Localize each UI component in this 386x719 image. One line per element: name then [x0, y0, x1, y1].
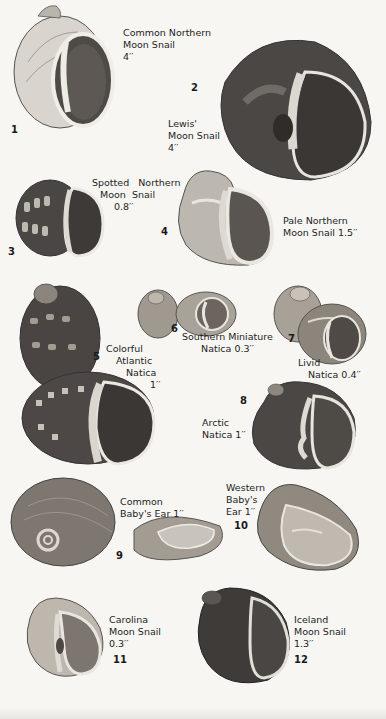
caption-line: Moon Snail — [123, 39, 211, 51]
caption-line: Moon Snail — [109, 626, 161, 638]
caption-12: Iceland Moon Snail 1.3′′ — [294, 614, 346, 650]
caption-line: Iceland — [294, 614, 346, 626]
caption-3: Spotted Northern Moon Snail 0.8′′ — [92, 177, 180, 213]
caption-line: Ear 1′′ — [226, 506, 265, 518]
caption-line: Baby's Ear 1′′ — [120, 508, 184, 520]
shell-illustration-8 — [248, 376, 360, 472]
caption-line: Moon Snail 1.5′′ — [283, 227, 357, 239]
shell-illustration-10 — [252, 481, 364, 573]
caption-line: Southern Miniature — [182, 331, 273, 343]
specimen-number-4: 4 — [161, 226, 168, 237]
caption-line: Lewis' — [168, 118, 220, 130]
caption-size: 4′′ — [123, 51, 211, 63]
caption-2: Lewis' Moon Snail 4′′ — [168, 118, 220, 154]
specimen-number-12: 12 — [294, 654, 308, 665]
caption-size: 1′′ — [106, 379, 160, 391]
caption-9: Common Baby's Ear 1′′ — [120, 496, 184, 520]
caption-line: Baby's — [226, 494, 265, 506]
caption-line: Moon Snail — [294, 626, 346, 638]
specimen-number-3: 3 — [8, 246, 15, 257]
specimen-number-2: 2 — [191, 82, 198, 93]
caption-line: Moon Snail — [92, 189, 180, 201]
caption-line: Spotted Northern — [92, 177, 180, 189]
caption-5: Colorful Atlantic Natica 1′′ — [106, 343, 160, 391]
caption-line: Pale Northern — [283, 215, 357, 227]
caption-11: Carolina Moon Snail 0.3′′ — [109, 614, 161, 650]
caption-line: Livid — [298, 357, 361, 369]
caption-line: Carolina — [109, 614, 161, 626]
field-guide-plate: Common Northern Moon Snail 4′′ 1 2 Lewis… — [0, 0, 386, 719]
caption-6: Southern Miniature Natica 0.3′′ — [182, 331, 273, 355]
specimen-number-1: 1 — [11, 124, 18, 135]
caption-size: 0.8′′ — [92, 201, 180, 213]
specimen-number-9: 9 — [116, 550, 123, 561]
shell-illustration-1 — [8, 2, 120, 132]
caption-line: Common Northern — [123, 27, 211, 39]
specimen-number-7: 7 — [288, 333, 295, 344]
caption-line: Western — [226, 482, 265, 494]
caption-line: Natica 0.3′′ — [182, 343, 273, 355]
shell-illustration-4 — [170, 163, 280, 267]
caption-line: Moon Snail — [168, 130, 220, 142]
caption-1: Common Northern Moon Snail 4′′ — [123, 27, 211, 63]
shell-illustration-12 — [190, 584, 296, 686]
caption-line: Colorful — [106, 343, 160, 355]
caption-size: 0.3′′ — [109, 638, 161, 650]
caption-8: Arctic Natica 1′′ — [202, 417, 246, 441]
caption-line: Common — [120, 496, 184, 508]
shell-illustration-2 — [205, 32, 375, 182]
caption-line: Arctic — [202, 417, 246, 429]
specimen-number-6: 6 — [171, 323, 178, 334]
page-edge-shadow — [0, 707, 386, 719]
caption-size: 1.3′′ — [294, 638, 346, 650]
caption-4: Pale Northern Moon Snail 1.5′′ — [283, 215, 357, 239]
caption-line: Natica 1′′ — [202, 429, 246, 441]
specimen-number-10: 10 — [234, 520, 248, 531]
specimen-number-11: 11 — [113, 654, 127, 665]
caption-10: Western Baby's Ear 1′′ — [226, 482, 265, 518]
shell-illustration-11 — [20, 594, 110, 680]
specimen-number-5: 5 — [93, 351, 100, 362]
caption-size: 4′′ — [168, 142, 220, 154]
caption-line: Atlantic — [106, 355, 160, 367]
caption-line: Natica — [106, 367, 160, 379]
specimen-number-8: 8 — [240, 395, 247, 406]
shell-illustration-7 — [270, 282, 370, 366]
